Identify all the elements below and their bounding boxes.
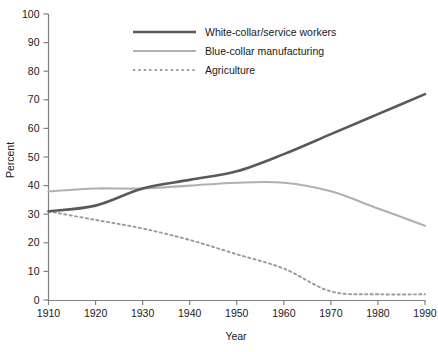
legend-label: Agriculture <box>205 64 255 76</box>
y-axis-tick-labels: 0102030405060708090100 <box>22 8 40 306</box>
x-tick-label: 1990 <box>413 307 437 319</box>
x-tick-label: 1970 <box>319 307 343 319</box>
x-tick-label: 1940 <box>178 307 202 319</box>
x-tick-label: 1950 <box>225 307 249 319</box>
series-line <box>49 211 426 294</box>
line-chart: 0102030405060708090100 19101920193019401… <box>0 0 438 352</box>
legend-label: Blue-collar manufacturing <box>205 45 324 57</box>
y-tick-label: 50 <box>28 151 40 163</box>
x-tick-label: 1960 <box>272 307 296 319</box>
x-axis-title: Year <box>225 330 247 342</box>
y-tick-label: 100 <box>22 8 40 20</box>
y-axis-title: Percent <box>4 142 16 178</box>
legend-label: White-collar/service workers <box>205 26 336 38</box>
series-line <box>49 94 426 211</box>
chart-legend: White-collar/service workersBlue-collar … <box>133 26 336 76</box>
x-tick-label: 1910 <box>37 307 61 319</box>
y-tick-label: 90 <box>28 36 40 48</box>
chart-container: 0102030405060708090100 19101920193019401… <box>0 0 438 352</box>
y-tick-label: 60 <box>28 122 40 134</box>
y-tick-label: 20 <box>28 236 40 248</box>
x-tick-label: 1980 <box>366 307 390 319</box>
y-axis-ticks <box>44 14 49 300</box>
x-tick-label: 1930 <box>131 307 155 319</box>
x-axis-tick-labels: 191019201930194019501960197019801990 <box>37 307 437 319</box>
y-tick-label: 30 <box>28 208 40 220</box>
y-tick-label: 40 <box>28 179 40 191</box>
y-tick-label: 80 <box>28 65 40 77</box>
y-tick-label: 10 <box>28 265 40 277</box>
y-tick-label: 70 <box>28 93 40 105</box>
series-paths <box>49 94 426 294</box>
x-tick-label: 1920 <box>84 307 108 319</box>
y-tick-label: 0 <box>34 294 40 306</box>
